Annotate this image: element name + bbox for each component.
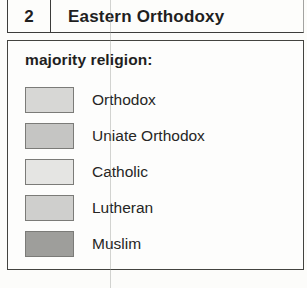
legend-items: Orthodox Uniate Orthodox Catholic Luther…: [25, 86, 303, 257]
legend-color-swatch: [25, 123, 74, 149]
legend-item-label: Muslim: [74, 235, 141, 253]
map-key-number-cell: 2: [8, 0, 51, 32]
legend-panel: majority religion: Orthodox Uniate Ortho…: [7, 40, 304, 270]
legend-item-label: Catholic: [74, 163, 148, 181]
legend-item-label: Orthodox: [74, 91, 156, 109]
legend-color-swatch: [25, 195, 74, 221]
map-key-header: 2 Eastern Orthodoxy: [7, 0, 304, 33]
legend-item-label: Lutheran: [74, 199, 153, 217]
legend-color-swatch: [25, 159, 74, 185]
legend-item: Muslim: [25, 230, 303, 257]
legend-color-swatch: [25, 87, 74, 113]
legend-item: Catholic: [25, 158, 303, 185]
map-key-title: Eastern Orthodoxy: [51, 7, 224, 27]
legend-color-swatch: [25, 231, 74, 257]
legend-item: Uniate Orthodox: [25, 122, 303, 149]
legend-item: Lutheran: [25, 194, 303, 221]
legend-item: Orthodox: [25, 86, 303, 113]
map-key-number: 2: [24, 7, 33, 27]
legend-heading: majority religion:: [25, 51, 303, 69]
legend-item-label: Uniate Orthodox: [74, 127, 205, 145]
scanned-map-page: 2 Eastern Orthodoxy majority religion: O…: [0, 0, 307, 288]
